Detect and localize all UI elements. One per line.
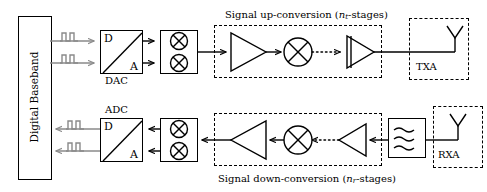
up-conversion-label-prefix: Signal up-conversion (	[225, 9, 339, 20]
rx-adc-to-baseband-signals	[56, 121, 100, 151]
dac-analog-symbol: A	[130, 60, 138, 73]
adc-block: D A	[100, 118, 143, 162]
tx-dac-to-mixer-links	[143, 41, 154, 63]
down-conversion-label: Signal down-conversion (nr-stages)	[218, 174, 396, 185]
rxa-label: RXA	[438, 150, 460, 160]
rx-mixer-pair-block	[160, 118, 198, 162]
up-conversion-label: Signal up-conversion (nt-stages)	[225, 10, 388, 21]
down-conversion-label-suffix: -stages)	[356, 173, 396, 184]
down-conversion-region	[214, 113, 382, 166]
digital-baseband-label: Digital Baseband	[28, 51, 40, 142]
dac-label: DAC	[105, 76, 128, 86]
up-conversion-region	[214, 25, 382, 78]
tx-mixer-pair-block	[160, 30, 198, 74]
adc-digital-symbol: D	[104, 120, 113, 133]
rx-mixer-to-adc-links	[149, 129, 160, 151]
dac-block: D A	[100, 30, 143, 74]
bandpass-filter-block	[388, 118, 426, 158]
txa-label: TXA	[416, 62, 437, 72]
down-conversion-label-prefix: Signal down-conversion (	[218, 173, 346, 184]
dac-digital-symbol: D	[104, 32, 113, 45]
digital-baseband-label-wrap: Digital Baseband	[18, 16, 50, 178]
adc-label: ADC	[105, 105, 128, 115]
up-conversion-label-suffix: -stages)	[348, 9, 388, 20]
adc-analog-symbol: A	[130, 148, 138, 161]
transceiver-block-diagram: Digital Baseband D A DAC Signal up-conve…	[0, 0, 487, 192]
tx-baseband-to-dac-signals	[50, 33, 94, 63]
